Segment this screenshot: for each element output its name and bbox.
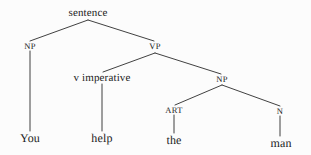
tree-node-np1: NP <box>24 42 35 51</box>
edge-root-vp <box>88 20 154 41</box>
syntax-tree-diagram: sentenceNPVPv imperativeNPARTNYouhelpthe… <box>0 0 311 155</box>
tree-node-art: ART <box>165 106 182 115</box>
tree-node-vp: VP <box>149 42 160 51</box>
edge-root-np1 <box>30 20 88 41</box>
tree-edge-layer <box>0 0 311 155</box>
tree-node-v-imp: v imperative <box>73 73 130 84</box>
edge-vp-vimp <box>103 53 155 72</box>
edge-np2-art <box>175 85 222 105</box>
edge-vp-np2 <box>155 53 221 74</box>
tree-node-leaf-help: help <box>91 132 112 144</box>
tree-node-n: N <box>277 107 283 116</box>
tree-branches <box>30 20 280 136</box>
tree-node-leaf-the: the <box>166 134 181 146</box>
tree-node-root: sentence <box>68 8 107 19</box>
tree-node-leaf-man: man <box>270 137 291 149</box>
tree-node-np2: NP <box>216 75 227 84</box>
tree-node-leaf-you: You <box>20 132 40 144</box>
edge-np2-n <box>222 85 280 106</box>
